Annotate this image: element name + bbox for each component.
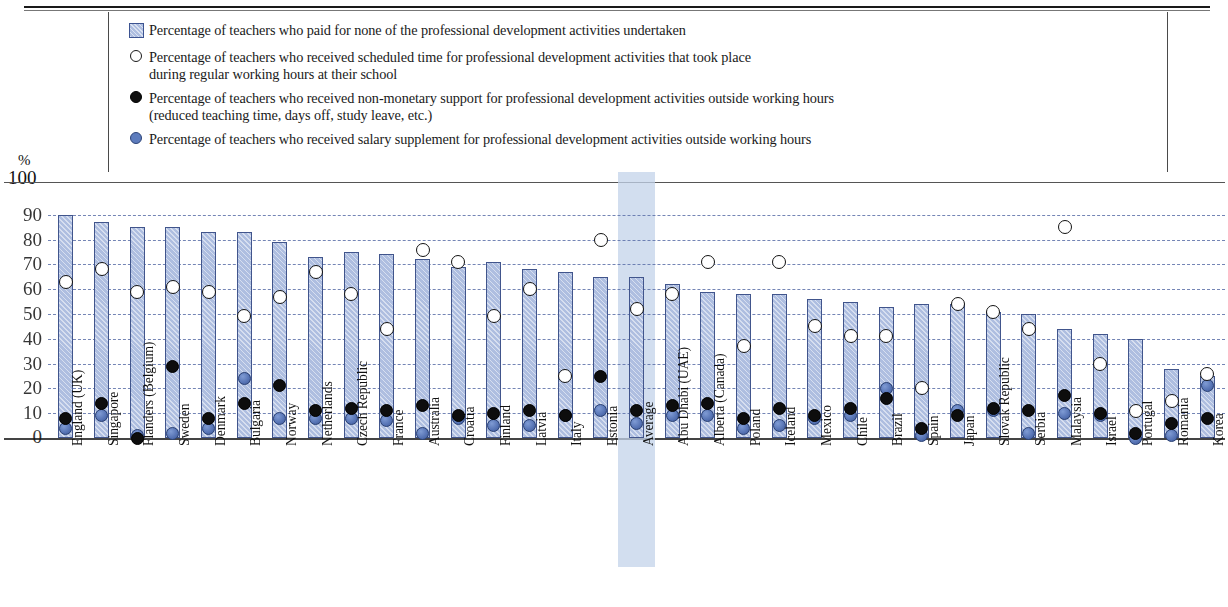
non-monetary-support-marker[interactable] [594, 370, 607, 383]
non-monetary-support-marker[interactable] [1094, 407, 1107, 420]
non-monetary-support-marker[interactable] [737, 412, 750, 425]
axis-tick-label: 80 [23, 230, 42, 249]
scheduled-time-marker[interactable] [986, 305, 1000, 319]
category-label-australia: Australia [428, 397, 442, 446]
category-label-alberta-canada: Alberta (Canada) [713, 354, 727, 446]
non-monetary-support-marker[interactable] [915, 422, 928, 435]
salary-supplement-marker[interactable] [630, 417, 643, 430]
gridline-80: 80 [48, 240, 1225, 241]
non-monetary-support-marker[interactable] [95, 397, 108, 410]
non-monetary-support-marker[interactable] [773, 402, 786, 415]
gridline-70: 70 [48, 264, 1225, 265]
category-label-portugal: Portugal [1141, 401, 1155, 446]
category-label-chile: Chile [856, 417, 870, 446]
category-label-spain: Spain [927, 416, 941, 446]
category-label-france: France [392, 410, 406, 446]
scheduled-time-marker[interactable] [594, 233, 608, 247]
scheduled-time-marker[interactable] [202, 285, 216, 299]
axis-tick-label: 40 [23, 329, 42, 348]
non-monetary-support-marker[interactable] [59, 412, 72, 425]
non-monetary-support-marker[interactable] [131, 432, 144, 445]
title-rule-top [24, 6, 1210, 8]
scheduled-time-marker[interactable] [1058, 220, 1072, 234]
category-label-abu-dhabi-uae: Abu Dhabi (UAE) [677, 347, 691, 446]
scheduled-time-marker[interactable] [1129, 404, 1143, 418]
non-monetary-support-marker[interactable] [1165, 417, 1178, 430]
axis-tick-label: 20 [23, 378, 42, 397]
category-label-iceland: Iceland [784, 407, 798, 446]
category-label-england-uk: England (UK) [71, 370, 85, 446]
category-label-denmark: Denmark [214, 396, 228, 446]
scheduled-time-marker[interactable] [772, 255, 786, 269]
category-label-czech-republic: Czech Republic [356, 361, 370, 446]
category-label-estonia: Estonia [606, 406, 620, 446]
salary-supplement-marker[interactable] [773, 419, 786, 432]
salary-supplement-marker[interactable] [523, 419, 536, 432]
category-label-croatia: Croatia [463, 407, 477, 446]
scheduled-time-marker[interactable] [1022, 322, 1036, 336]
axis-tick-label: 60 [23, 279, 42, 298]
open-circle-icon [123, 49, 149, 68]
scheduled-time-marker[interactable] [701, 255, 715, 269]
scheduled-time-marker[interactable] [523, 282, 537, 296]
salary-supplement-marker[interactable] [1165, 429, 1178, 442]
scheduled-time-marker[interactable] [130, 285, 144, 299]
legend-item-bar: Percentage of teachers who paid for none… [109, 22, 1167, 41]
category-label-sweden: Sweden [178, 404, 192, 446]
non-monetary-support-marker[interactable] [238, 397, 251, 410]
category-label-average: Average [642, 402, 656, 446]
salary-supplement-marker[interactable] [416, 427, 429, 440]
non-monetary-support-marker[interactable] [880, 392, 893, 405]
category-label-malaysia: Malaysia [1070, 397, 1084, 446]
non-monetary-support-marker[interactable] [987, 402, 1000, 415]
scheduled-time-marker[interactable] [95, 262, 109, 276]
non-monetary-support-marker[interactable] [1129, 427, 1142, 440]
non-monetary-support-marker[interactable] [345, 402, 358, 415]
salary-supplement-marker[interactable] [238, 372, 251, 385]
scheduled-time-marker[interactable] [273, 290, 287, 304]
non-monetary-support-marker[interactable] [487, 407, 500, 420]
category-label-poland: Poland [749, 409, 763, 446]
legend-label-non-monetary: Percentage of teachers who received non-… [149, 90, 834, 123]
category-label-singapore: Singapore [107, 392, 121, 446]
legend-label-salary-supplement: Percentage of teachers who received sala… [149, 131, 811, 148]
category-label-slovak-republic: Slovak Republic [998, 357, 1012, 446]
title-rule-bottom [24, 10, 1210, 11]
blue-circle-icon [123, 131, 149, 150]
non-monetary-support-marker[interactable] [166, 360, 179, 373]
non-monetary-support-marker[interactable] [666, 399, 679, 412]
scheduled-time-marker[interactable] [844, 329, 858, 343]
salary-supplement-marker[interactable] [166, 427, 179, 440]
category-label-romania: Romania [1177, 398, 1191, 446]
scheduled-time-marker[interactable] [416, 243, 430, 257]
non-monetary-support-marker[interactable] [1201, 412, 1214, 425]
category-label-bulgaria: Bulgaria [249, 400, 263, 446]
scheduled-time-marker[interactable] [1093, 357, 1107, 371]
scheduled-time-marker[interactable] [1165, 394, 1179, 408]
legend-label-bar: Percentage of teachers who paid for none… [149, 22, 686, 39]
salary-supplement-marker[interactable] [1058, 407, 1071, 420]
axis-tick-label: 0 [33, 427, 43, 446]
category-label-finland: Finland [499, 405, 513, 446]
scheduled-time-marker[interactable] [309, 265, 323, 279]
scheduled-time-marker[interactable] [737, 339, 751, 353]
salary-supplement-marker[interactable] [1201, 379, 1214, 392]
scheduled-time-marker[interactable] [630, 302, 644, 316]
non-monetary-support-marker[interactable] [452, 409, 465, 422]
scheduled-time-marker[interactable] [380, 322, 394, 336]
scheduled-time-marker[interactable] [1200, 367, 1214, 381]
salary-supplement-marker[interactable] [1022, 427, 1035, 440]
non-monetary-support-marker[interactable] [559, 409, 572, 422]
black-circle-icon [123, 90, 149, 109]
scheduled-time-marker[interactable] [59, 275, 73, 289]
scheduled-time-marker[interactable] [951, 297, 965, 311]
category-label-serbia: Serbia [1034, 412, 1048, 446]
gridline-90: 90 [48, 215, 1225, 216]
non-monetary-support-marker[interactable] [844, 402, 857, 415]
scheduled-time-marker[interactable] [166, 280, 180, 294]
legend-item-scheduled-time: Percentage of teachers who received sche… [109, 49, 1167, 82]
scheduled-time-marker[interactable] [451, 255, 465, 269]
non-monetary-support-marker[interactable] [202, 412, 215, 425]
salary-supplement-marker[interactable] [273, 412, 286, 425]
category-label-japan: Japan [963, 416, 977, 446]
